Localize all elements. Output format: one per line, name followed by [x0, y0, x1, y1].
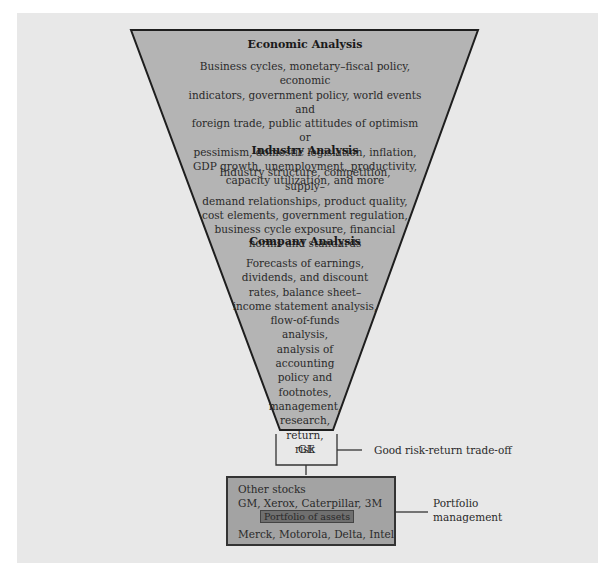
stocks-top-list: GM, Xerox, Caterpillar, 3M [238, 496, 382, 510]
company-line: footnotes, [225, 385, 385, 399]
company-line: Forecasts of earnings, [225, 256, 385, 270]
economic-analysis-title: Economic Analysis [205, 38, 405, 51]
company-analysis-text: Forecasts of earnings, dividends, and di… [225, 256, 385, 456]
industry-line: demand relationships, product quality, [200, 194, 410, 208]
company-line: analysis of [225, 342, 385, 356]
selected-stock-ge: GE [276, 443, 337, 457]
company-line: income statement analysis, [225, 299, 385, 313]
company-line: research, [225, 413, 385, 427]
company-line: policy and [225, 370, 385, 384]
risk-return-annotation: Good risk-return trade-off [374, 443, 574, 457]
portfolio-annotation-line: management [433, 510, 502, 524]
industry-line: cost elements, government regulation, [200, 208, 410, 222]
industry-analysis-title: Industry Analysis [205, 144, 405, 157]
company-line: return, [225, 428, 385, 442]
company-line: flow-of-funds [225, 313, 385, 327]
economic-line: Business cycles, monetary–fiscal policy,… [185, 59, 425, 88]
economic-line: indicators, government policy, world eve… [185, 88, 425, 117]
company-line: analysis, [225, 327, 385, 341]
portfolio-management-annotation: Portfolio management [433, 496, 502, 524]
company-line: dividends, and discount [225, 270, 385, 284]
portfolio-of-assets-box: Portfolio of assets [260, 510, 354, 523]
economic-line: foreign trade, public attitudes of optim… [185, 116, 425, 145]
industry-line: Industry structure, competition, supply– [200, 165, 410, 194]
company-analysis-title: Company Analysis [205, 235, 405, 248]
company-line: rates, balance sheet– [225, 285, 385, 299]
portfolio-annotation-line: Portfolio [433, 496, 502, 510]
company-line: accounting [225, 356, 385, 370]
other-stocks-heading: Other stocks [238, 482, 306, 496]
company-line: management, [225, 399, 385, 413]
stocks-bottom-list: Merck, Motorola, Delta, Intel [238, 527, 394, 541]
